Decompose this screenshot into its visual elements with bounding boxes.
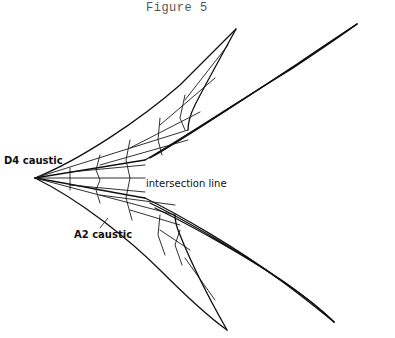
web-line (180, 95, 185, 130)
caustic-edge (35, 178, 227, 330)
a2-caustic-label: A2 caustic (74, 229, 132, 240)
d4-caustic-label: D4 caustic (4, 155, 63, 166)
web-line (158, 215, 165, 255)
caustic-edge (35, 29, 236, 178)
caustic-edge (35, 178, 145, 198)
web-line (185, 45, 228, 100)
web-line (185, 258, 215, 300)
caustic-edge (150, 203, 334, 322)
web-line (96, 155, 100, 203)
intersection-line-label: intersection line (146, 178, 227, 189)
web-line (130, 112, 200, 148)
caustic-web-lines (35, 45, 228, 300)
web-line (175, 230, 182, 265)
web-line (126, 140, 132, 220)
web-line (160, 230, 190, 250)
caustic-diagram (0, 0, 395, 338)
caustic-outer-edges (35, 24, 357, 330)
